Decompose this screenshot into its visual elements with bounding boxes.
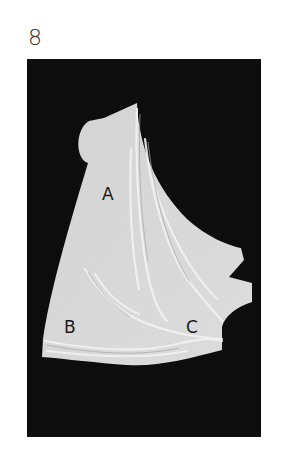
draped-fabric-piece — [27, 59, 261, 437]
label-b: B — [64, 317, 76, 337]
figure-number: 8 — [28, 25, 42, 50]
label-a: A — [102, 184, 114, 204]
label-c: C — [186, 317, 198, 337]
photo-panel: A B C — [27, 59, 261, 437]
